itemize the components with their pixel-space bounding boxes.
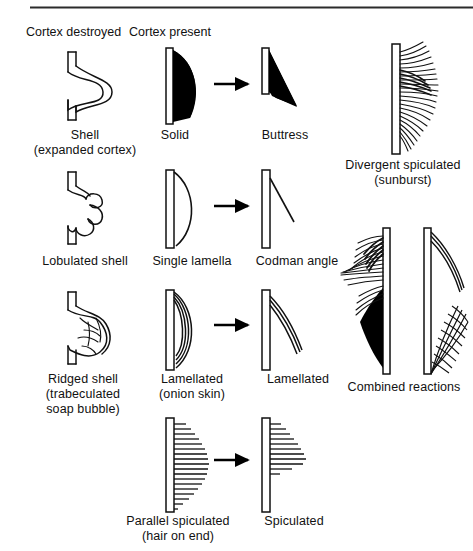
label-shell: Shell bbox=[30, 128, 140, 142]
parallel-spiculated-drawing bbox=[166, 418, 209, 512]
buttress-drawing bbox=[262, 48, 297, 107]
label-codman-angle: Codman angle bbox=[236, 254, 358, 268]
label-spiculated: Spiculated bbox=[248, 514, 340, 528]
lamellated-interrupted-drawing bbox=[262, 290, 302, 370]
label-solid: Solid bbox=[140, 128, 210, 142]
label-ridged-shell-sub2: soap bubble) bbox=[20, 402, 146, 416]
combined-reactions-drawing bbox=[341, 228, 468, 374]
periosteal-reaction-diagram bbox=[0, 0, 473, 551]
label-buttress: Buttress bbox=[240, 128, 330, 142]
header-cortex-destroyed: Cortex destroyed bbox=[26, 25, 121, 39]
solid-drawing bbox=[166, 48, 196, 124]
single-lamella-drawing bbox=[166, 170, 192, 248]
top-rule bbox=[30, 7, 473, 9]
spiculated-interrupted-drawing bbox=[262, 418, 306, 512]
label-ridged-shell: Ridged shell bbox=[24, 372, 142, 386]
label-lamellated: Lamellated bbox=[134, 372, 250, 386]
label-shell-sub: (expanded cortex) bbox=[20, 143, 150, 157]
lamellated-drawing bbox=[166, 290, 192, 370]
header-cortex-present: Cortex present bbox=[129, 25, 211, 39]
divergent-spiculated-drawing bbox=[392, 42, 438, 154]
shell-drawing bbox=[68, 52, 112, 120]
label-ridged-shell-sub1: (trabeculated bbox=[20, 387, 146, 401]
label-lamellated-sub: (onion skin) bbox=[134, 387, 250, 401]
lobulated-shell-drawing bbox=[68, 172, 102, 244]
label-parallel-spiculated-sub: (hair on end) bbox=[108, 529, 248, 543]
label-divergent-spiculated: Divergent spiculated bbox=[336, 158, 470, 172]
label-combined-reactions: Combined reactions bbox=[338, 380, 470, 394]
ridged-shell-drawing bbox=[68, 292, 110, 364]
label-single-lamella: Single lamella bbox=[132, 254, 252, 268]
label-parallel-spiculated: Parallel spiculated bbox=[108, 514, 248, 528]
codman-angle-drawing bbox=[262, 170, 294, 248]
label-divergent-spiculated-sub: (sunburst) bbox=[336, 173, 470, 187]
